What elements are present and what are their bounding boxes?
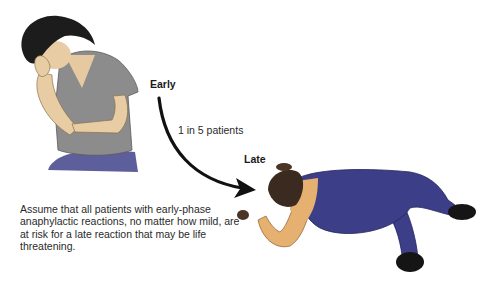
late-patient-shoe-bottom [396,252,424,272]
early-patient-figure [21,16,138,172]
late-patient-hand-top [276,163,292,171]
late-patient-figure [237,163,476,272]
late-patient-overalls [298,170,455,234]
late-patient-shoe-top [448,204,476,220]
arrow-shaft [159,98,242,188]
transition-arrow [159,98,256,198]
early-stage-label: Early [150,78,176,90]
clinical-note: Assume that all patients with early-phas… [20,203,245,252]
late-stage-label: Late [244,153,266,165]
late-patient-head [268,170,303,207]
transition-label: 1 in 5 patients [178,124,243,136]
